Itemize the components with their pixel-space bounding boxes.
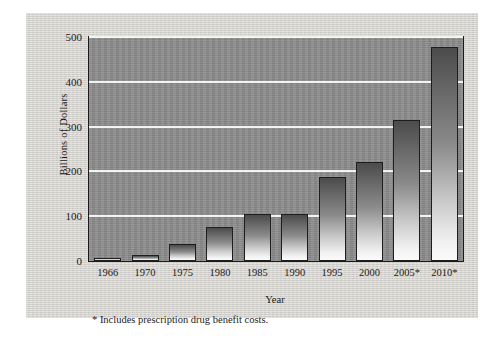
y-tick-label: 0: [77, 256, 83, 267]
x-tick-label: 1975: [172, 268, 193, 279]
x-axis-title: Year: [88, 294, 462, 305]
y-tick-label: 200: [66, 166, 83, 177]
bar-1995: [319, 177, 346, 261]
bar-2000: [356, 162, 383, 261]
y-tick-label: 400: [66, 76, 83, 87]
figure-panel: Billions of Dollars 0100200300400500 196…: [26, 13, 478, 318]
x-tick-label: 1995: [322, 268, 343, 279]
x-tick-label: 2000: [359, 268, 380, 279]
x-tick-label: 2005*: [394, 268, 420, 279]
bar-1970: [132, 255, 159, 261]
x-tick-label: 1990: [284, 268, 305, 279]
x-tick-label: 1970: [135, 268, 156, 279]
x-tick-label: 2010*: [431, 268, 457, 279]
y-tick-label: 300: [66, 121, 83, 132]
bar-2005: [393, 120, 420, 261]
bar-2010: [431, 47, 458, 261]
chart-plot-area: 0100200300400500 19661970197519801985199…: [88, 36, 464, 262]
bar-series: [89, 37, 463, 261]
y-tick-label: 500: [66, 32, 83, 43]
x-tick-label: 1980: [209, 268, 230, 279]
bar-1966: [94, 258, 121, 261]
bar-1980: [206, 227, 233, 261]
footnote: * Includes prescription drug benefit cos…: [92, 314, 268, 325]
bar-1985: [244, 214, 271, 261]
bar-1975: [169, 244, 196, 261]
y-tick-label: 100: [66, 211, 83, 222]
bar-1990: [281, 214, 308, 261]
x-tick-label: 1966: [97, 268, 118, 279]
x-tick-label: 1985: [247, 268, 268, 279]
